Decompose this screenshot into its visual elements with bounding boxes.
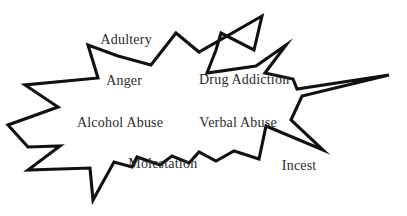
starburst-shape: [0, 0, 407, 216]
starburst-outline-path: [8, 16, 389, 200]
starburst-diagram: Adultery Anger Drug Addiction Alcohol Ab…: [0, 0, 407, 216]
